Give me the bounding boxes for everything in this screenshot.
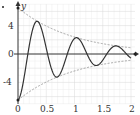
corner-marker	[2, 6, 4, 8]
x-tick-0: 0	[15, 104, 21, 114]
y-tick-neg4: -4	[3, 77, 12, 87]
x-tick-0.5: 0.5	[40, 104, 55, 114]
y-tick-4: 4	[8, 21, 14, 31]
x-tick-1: 1	[73, 104, 79, 114]
curve-start-point	[17, 99, 20, 102]
y-tick-0: 0	[8, 49, 14, 59]
y-axis-arrow-icon	[16, 1, 21, 6]
x-tick-1.5: 1.5	[97, 104, 112, 114]
curve-end-point	[134, 53, 137, 56]
envelope-start-upper-point	[17, 7, 20, 10]
x-tick-2: 2	[129, 104, 135, 114]
damped-oscillation-chart: y 4 0 -4 0 0.5 1 1.5 2	[0, 0, 140, 115]
y-axis-label: y	[20, 1, 27, 11]
